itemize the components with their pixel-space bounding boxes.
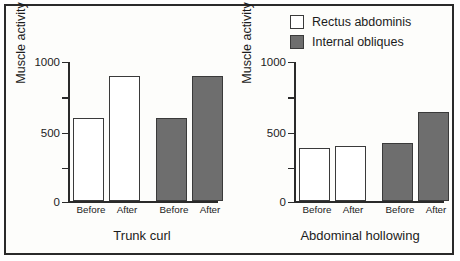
panel-trunk-curl: Muscle activity 1000 500 0: [6, 6, 232, 257]
y-tick-500-right: [288, 133, 294, 134]
y-tick-750-right: [288, 97, 294, 98]
cat-label-after-rectus-right: After: [335, 204, 371, 215]
plot-area-right: 1000 500 0: [294, 62, 444, 203]
bars-left: [73, 62, 218, 201]
bar-obliques-before-right: [382, 143, 413, 201]
plot-area-left: 1000 500 0: [68, 62, 218, 203]
y-axis-line-left: [68, 62, 70, 203]
cat-group-obliques-right: Before After: [382, 204, 454, 215]
y-axis-label-left: Muscle activity: [14, 0, 28, 98]
x-category-labels-right: Before After Before After: [299, 204, 454, 215]
cat-group-obliques-left: Before After: [156, 204, 228, 215]
bar-rectus-after-right: [335, 146, 366, 202]
bar-rectus-before-right: [299, 148, 330, 202]
y-tick-label-0-right: 0: [280, 196, 286, 208]
y-axis-label-right: Muscle activity: [240, 0, 254, 98]
y-tick-label-500-right: 500: [267, 127, 286, 139]
y-axis-line-right: [294, 62, 296, 203]
cat-label-before-rectus-left: Before: [73, 204, 109, 215]
y-tick-label-1000-right: 1000: [260, 56, 286, 68]
y-tick-1000-left: [62, 62, 68, 63]
bar-rectus-before-left: [73, 118, 104, 201]
panel-title-abdominal-hollowing: Abdominal hollowing: [232, 228, 454, 243]
y-tick-1000-right: [288, 62, 294, 63]
bar-group-internal-obliques-right: [382, 112, 454, 201]
y-tick-0-right: [288, 202, 294, 203]
cat-group-rectus-right: Before After: [299, 204, 371, 215]
bar-obliques-before-left: [156, 118, 187, 201]
y-tick-250-right: [288, 168, 294, 169]
y-tick-label-1000-left: 1000: [34, 56, 60, 68]
figure-frame: Rectus abdominis Internal obliques Muscl…: [4, 4, 454, 255]
cat-label-after-rectus-left: After: [109, 204, 145, 215]
y-tick-750-left: [62, 97, 68, 98]
cat-label-before-rectus-right: Before: [299, 204, 335, 215]
y-tick-0-left: [62, 202, 68, 203]
y-tick-250-left: [62, 168, 68, 169]
bar-group-rectus-abdominis-left: [73, 76, 145, 201]
cat-label-after-obliques-left: After: [192, 204, 228, 215]
bar-rectus-after-left: [109, 76, 140, 201]
y-tick-500-left: [62, 133, 68, 134]
cat-label-before-obliques-left: Before: [156, 204, 192, 215]
y-tick-label-500-left: 500: [41, 127, 60, 139]
cat-label-before-obliques-right: Before: [382, 204, 418, 215]
bar-group-rectus-abdominis-right: [299, 146, 371, 202]
x-axis-line-right: [294, 201, 444, 203]
panel-title-trunk-curl: Trunk curl: [6, 228, 232, 243]
bar-obliques-after-right: [418, 112, 449, 201]
panel-abdominal-hollowing: Muscle activity 1000 500 0: [232, 6, 454, 257]
bars-right: [299, 62, 444, 201]
x-category-labels-left: Before After Before After: [73, 204, 232, 215]
bar-obliques-after-left: [192, 76, 223, 201]
x-axis-line-left: [68, 201, 218, 203]
bar-group-internal-obliques-left: [156, 76, 228, 201]
cat-label-after-obliques-right: After: [418, 204, 454, 215]
cat-group-rectus-left: Before After: [73, 204, 145, 215]
y-tick-label-0-left: 0: [54, 196, 60, 208]
